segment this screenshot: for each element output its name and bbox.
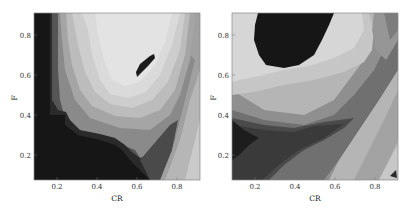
x-tick-label: 0.4 xyxy=(289,183,301,191)
y-axis-label: F xyxy=(10,95,19,100)
x-tick-label: 0.8 xyxy=(171,183,182,191)
y-tick-label: 0.2 xyxy=(20,152,31,160)
x-tick-label: 0.6 xyxy=(131,183,143,191)
y-tick-label: 0.6 xyxy=(20,72,32,80)
x-tick-label: 0.4 xyxy=(91,183,103,191)
contour-fill-left xyxy=(34,13,200,180)
y-tick-label: 0.8 xyxy=(218,32,229,40)
contour-plot-right: 0.8 0.6 0.4 0.2 0.2 0.4 0.6 0.8 CR F xyxy=(204,0,408,212)
contour-plot-left: 0.8 0.6 0.4 0.2 0.2 0.4 0.6 0.8 CR F xyxy=(0,0,204,212)
contour-fill-right xyxy=(232,13,398,180)
y-tick-label: 0.4 xyxy=(20,112,32,120)
x-tick-label: 0.2 xyxy=(249,183,260,191)
y-tick-label: 0.4 xyxy=(218,112,230,120)
y-axis-label: F xyxy=(209,95,218,100)
x-tick-label: 0.6 xyxy=(329,183,341,191)
y-tick-label: 0.8 xyxy=(20,32,31,40)
x-tick-label: 0.8 xyxy=(369,183,380,191)
x-axis-label: CR xyxy=(111,194,123,203)
y-tick-label: 0.2 xyxy=(218,152,229,160)
contour-plot-left-svg: 0.8 0.6 0.4 0.2 0.2 0.4 0.6 0.8 CR F xyxy=(0,0,204,212)
x-axis-label: CR xyxy=(309,194,321,203)
x-tick-label: 0.2 xyxy=(51,183,62,191)
y-tick-label: 0.6 xyxy=(218,72,230,80)
contour-plot-right-svg: 0.8 0.6 0.4 0.2 0.2 0.4 0.6 0.8 CR F xyxy=(204,0,408,212)
